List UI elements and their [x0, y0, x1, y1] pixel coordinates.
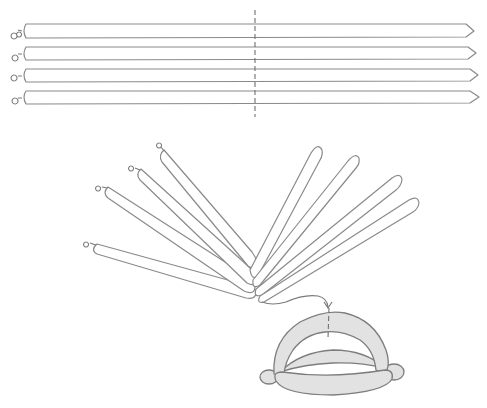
base-balloon [275, 370, 393, 395]
balloon-knot-icon [11, 30, 22, 39]
balloon-knot-icon [12, 54, 22, 61]
balloon-knot-icon [11, 75, 22, 81]
straight-balloon-2 [12, 47, 476, 61]
straight-balloon-3 [11, 69, 478, 82]
step-3-shaded-frame [260, 308, 404, 395]
straight-balloon-4 [12, 91, 479, 104]
balloon-instruction-diagram [0, 0, 487, 408]
step-2-fanned-balloons [84, 143, 419, 308]
balloon-knot-icon [129, 166, 140, 171]
crossbar-balloon [280, 350, 385, 372]
straight-balloon-1 [11, 24, 474, 39]
balloon-knot-icon [157, 143, 164, 151]
step-1-straight-balloons [11, 10, 479, 117]
balloon-knot-icon [12, 98, 22, 104]
